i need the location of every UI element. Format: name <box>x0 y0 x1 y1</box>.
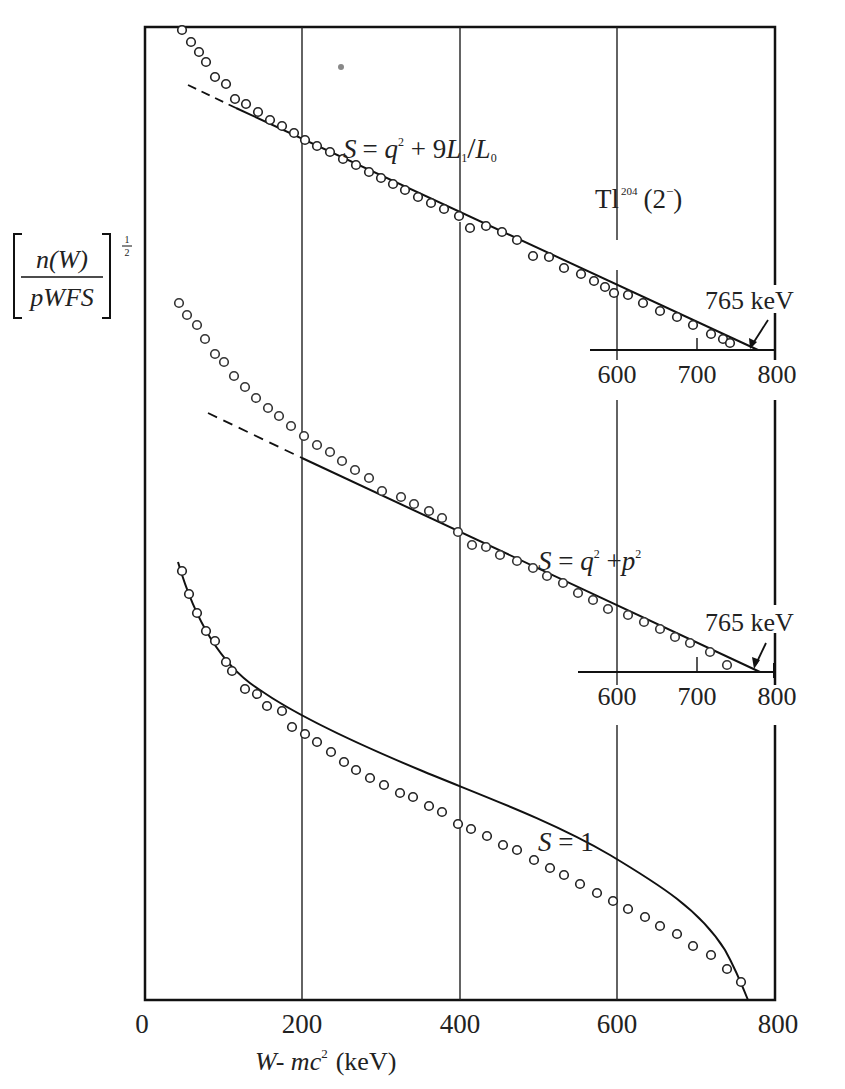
svg-text:600: 600 <box>598 360 637 389</box>
y-axis-label: n(W) pWFS 1 2 <box>14 234 132 318</box>
kurie-plot: 0 200 400 600 800 W- mc2(keV) S= q2 + 9L… <box>0 0 845 1089</box>
svg-text:700: 700 <box>678 682 717 711</box>
dashed-extension-top <box>188 85 236 108</box>
endpoint-label-middle: 765 keV <box>705 608 794 637</box>
y-label-numerator: n(W) <box>36 245 88 274</box>
x-tick-200: 200 <box>282 1009 323 1039</box>
series-label-top: S= q2 + 9L1/L0 <box>343 131 497 165</box>
svg-text:700: 700 <box>678 360 717 389</box>
nucleus-label: Tl204(2−) <box>595 184 682 214</box>
series-label-middle: S = q2 +p2 <box>538 546 641 576</box>
x-tick-labels: 0 200 400 600 800 <box>135 1009 798 1039</box>
svg-text:800: 800 <box>758 682 797 711</box>
x-axis-title: W- mc2(keV) <box>255 1046 396 1076</box>
endpoint-label-top: 765 keV <box>705 286 794 315</box>
x-tick-0: 0 <box>135 1009 149 1039</box>
arrow-icon <box>749 320 768 349</box>
x-tick-400: 400 <box>440 1009 481 1039</box>
y-label-denominator: pWFS <box>28 283 94 312</box>
inset-axis-top <box>590 338 775 357</box>
y-exp-num: 1 <box>125 234 130 245</box>
x-tick-600: 600 <box>597 1009 638 1039</box>
inset-tick-labels-top: 600 700 800 <box>598 360 797 389</box>
inset-tick-labels-middle: 600 700 800 <box>598 682 797 711</box>
x-tick-800: 800 <box>758 1009 799 1039</box>
series-middle <box>175 299 760 672</box>
svg-text:600: 600 <box>598 682 637 711</box>
y-exp-den: 2 <box>125 247 130 258</box>
arrow-icon <box>752 643 766 669</box>
series-label-bottom: S = 1 <box>538 827 594 857</box>
dashed-extension-middle <box>208 413 302 458</box>
inset-axis-middle <box>578 657 775 678</box>
svg-text:800: 800 <box>758 360 797 389</box>
data-points-middle <box>175 299 732 670</box>
